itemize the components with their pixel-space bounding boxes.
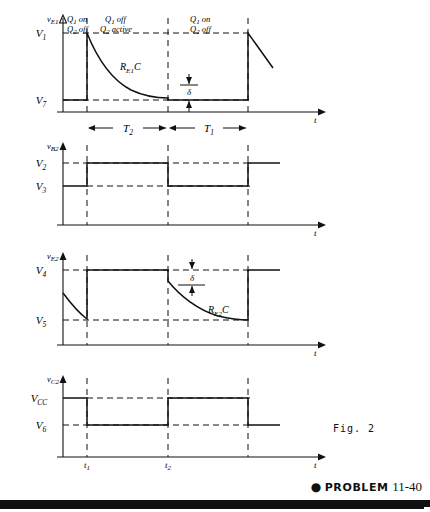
problem-label: ● PROBLEM 11-40 [311, 479, 422, 495]
state-label-1b: Q2 off [67, 24, 89, 36]
t-axis-label-panel2: t [314, 228, 317, 238]
bottom-rule [0, 500, 430, 507]
delta-label-panel3: δ [190, 273, 195, 283]
panel-v-c2: vC2 VCC V6 t t1 t2 [31, 374, 326, 472]
waveform-v-b2 [63, 163, 280, 186]
waveform-v-e2 [63, 270, 280, 320]
time-constant-label-re2c: RE2C [207, 304, 229, 318]
signal-label-v-e2: vE2 [47, 251, 59, 263]
t-axis-label-panel4: t [314, 460, 317, 470]
signal-label-v-c2: vC2 [47, 374, 59, 386]
y-axis-arrow-panel3 [60, 252, 67, 260]
panel-v-e1: vE1 V1 V7 RE1C δ t Q1 on Q2 off [36, 14, 326, 125]
signal-label-v-b2: vB2 [47, 141, 59, 153]
waveform-v-c2 [63, 398, 280, 425]
t-axis-label-panel1: t [314, 115, 317, 125]
level-label-v1: V1 [36, 27, 46, 42]
level-label-v2: V2 [36, 157, 47, 172]
panel-v-e2: δ RE2C vE2 V4 V5 t [36, 251, 326, 358]
t-axis-label-panel3: t [314, 348, 317, 358]
problem-word: PROBLEM [325, 481, 389, 494]
bullet-icon: ● [311, 480, 321, 494]
level-label-v3: V3 [36, 180, 47, 195]
x-axis-arrow-panel3 [318, 342, 326, 349]
signal-label-v-e1: vE1 [47, 14, 59, 26]
time-constant-label-re1c: RE1C [119, 61, 141, 75]
figure-root: vE1 V1 V7 RE1C δ t Q1 on Q2 off [0, 0, 430, 512]
level-label-vcc: VCC [31, 392, 49, 407]
x-axis-arrow-panel2 [318, 222, 326, 229]
level-label-v5: V5 [36, 314, 47, 329]
x-axis-arrow-panel4 [318, 454, 326, 461]
level-label-v7: V7 [36, 94, 47, 109]
waveform-diagram: vE1 V1 V7 RE1C δ t Q1 on Q2 off [0, 0, 430, 512]
y-axis-arrow-panel4 [60, 375, 67, 383]
time-mark-t2: t2 [165, 460, 172, 472]
figure-caption: Fig. 2 [333, 423, 375, 434]
x-axis-arrow-panel1 [318, 109, 326, 116]
y-axis-arrow-panel2 [60, 142, 67, 150]
level-label-v6: V6 [36, 419, 47, 434]
delta-label-panel1: δ [187, 87, 192, 97]
state-label-2b: Q2 active [100, 24, 132, 36]
state-label-3b: Q2 off [190, 24, 212, 36]
problem-number: 11-40 [392, 479, 422, 494]
panel-v-b2: vB2 V2 V3 t [36, 141, 326, 238]
level-label-v4: V4 [36, 264, 47, 279]
time-mark-t1: t1 [84, 460, 90, 472]
interval-dimensions: T2 T1 [89, 120, 246, 137]
